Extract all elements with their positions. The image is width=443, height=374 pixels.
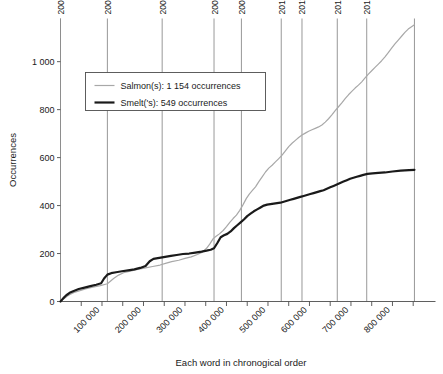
x-tick-label: 300 000 [154,305,184,335]
legend-label-salmon: Salmon(s): 1 154 occurrences [121,81,242,91]
year-label: 2012 [333,0,343,15]
legend: Salmon(s): 1 154 occurrencesSmelt('s): 5… [86,73,266,111]
year-label: 2009 [237,0,247,15]
cumulative-occurrences-chart: 2005200620072008200920102011201220130200… [0,0,443,374]
x-tick-label: 800 000 [362,305,392,335]
x-tick-label: 400 000 [196,305,226,335]
x-tick-label: 100 000 [71,305,101,335]
y-axis-title: Occurrences [7,133,18,187]
y-ticks-group: 02004006008001 000 [32,57,61,307]
chart-canvas: 2005200620072008200920102011201220130200… [0,0,443,374]
year-label: 2010 [277,0,287,15]
legend-label-smelt: Smelt('s): 549 occurrences [121,98,228,108]
y-tick-label: 400 [39,201,54,211]
x-tick-label: 600 000 [279,305,309,335]
series-line-salmon [61,25,415,302]
x-ticks-group: 100 000200 000300 000400 000500 000600 0… [71,302,413,335]
y-tick-label: 1 000 [32,57,55,67]
year-label: 2006 [103,0,113,15]
year-label: 2005 [56,0,66,15]
year-label: 2008 [210,0,220,15]
year-label: 2011 [297,0,307,15]
y-tick-label: 600 [39,153,54,163]
series-group [61,25,415,302]
x-axis-title: Each word in chronogical order [176,357,307,368]
year-label: 2007 [158,0,168,15]
y-tick-label: 0 [49,297,54,307]
x-tick-label: 700 000 [320,305,350,335]
series-line-smelt [61,170,415,302]
y-tick-label: 800 [39,105,54,115]
x-tick-label: 200 000 [113,305,143,335]
year-gridlines-group: 200520062007200820092010201120122013 [56,0,414,302]
axes-group [61,19,436,302]
y-tick-label: 200 [39,249,54,259]
x-tick-label: 500 000 [237,305,267,335]
year-label: 2013 [362,0,372,15]
